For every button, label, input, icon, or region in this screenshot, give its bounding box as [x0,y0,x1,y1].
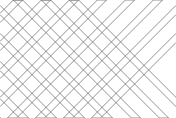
lattice-figure [0,0,176,118]
figure-background [0,0,176,118]
lattice-diagram [0,0,176,118]
